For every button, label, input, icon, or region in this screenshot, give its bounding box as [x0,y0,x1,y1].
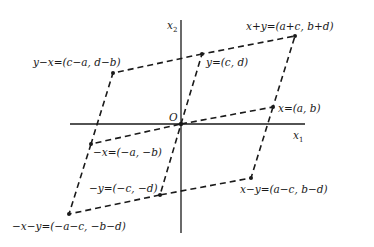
label-x: x=(a, b) [278,102,321,114]
label-neg-x-neg-y: −x−y=(−a−c, −b−d) [12,220,126,232]
label-neg-y: −y=(−c, −d) [89,182,158,194]
lower-parallelogram [69,124,181,214]
point-neg-x-neg-y [67,212,71,216]
point-x-plus-y [293,34,297,38]
x1-axis-label: x1 [293,129,303,144]
label-neg-x: −x=(−a, −b) [93,146,162,158]
origin-label: O [169,111,178,123]
label-y: y=(c, d) [205,56,248,68]
label-y-minus-x: y−x=(c−a, d−b) [32,56,121,68]
origin-point [179,122,183,126]
point-neg-y [158,193,162,197]
vector-parallelogram-diagram: x2 x1 O x+y=(a+c, b+d) y=(c, d) x=(a, b)… [0,0,374,247]
label-x-minus-y: x−y=(a−c, b−d) [240,183,328,195]
x2-axis-label: x2 [167,19,177,34]
label-x-plus-y: x+y=(a+c, b+d) [246,20,334,32]
point-x-minus-y [249,176,253,180]
point-y [200,52,204,56]
point-y-minus-x [111,71,115,75]
point-x [271,105,275,109]
